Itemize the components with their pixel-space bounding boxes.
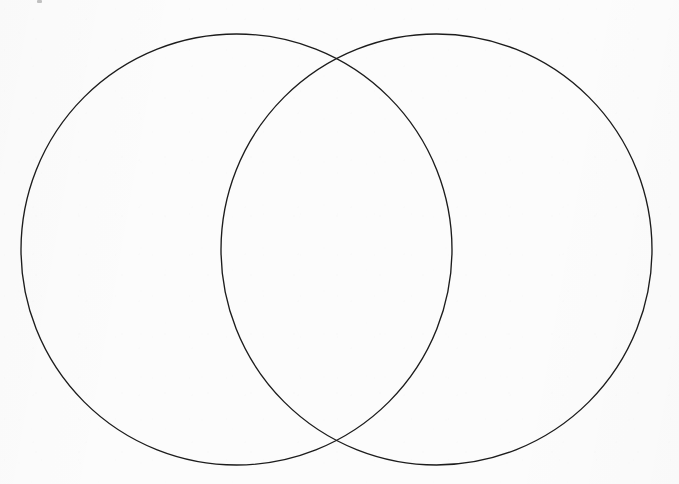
- scan-artifact-speck: [37, 0, 42, 3]
- venn-diagram-graphic: [0, 0, 679, 484]
- left-set-circle[interactable]: [21, 34, 452, 465]
- venn-diagram-canvas: [0, 0, 679, 484]
- right-set-circle[interactable]: [221, 34, 652, 465]
